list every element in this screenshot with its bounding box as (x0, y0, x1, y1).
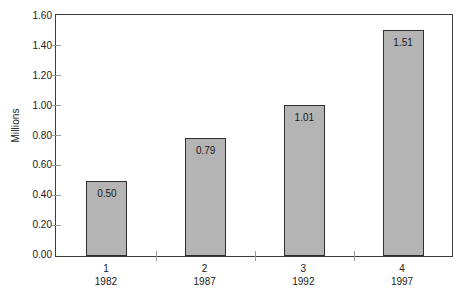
bar-value-label: 0.50 (87, 189, 126, 199)
x-axis-category-year: 1987 (155, 275, 254, 288)
bar-value-label: 1.51 (384, 38, 423, 48)
x-axis-tick-mark (255, 251, 256, 261)
y-axis-tick-mark (52, 225, 61, 226)
bar[interactable]: 1.01 (284, 105, 325, 256)
x-axis-category-label: 11982 (57, 262, 156, 288)
bar[interactable]: 1.51 (383, 30, 424, 256)
y-axis-tick-label: 1.40 (14, 41, 52, 51)
x-axis-category-label: 31992 (254, 262, 353, 288)
y-axis-tick-label: 1.60 (14, 11, 52, 21)
bar[interactable]: 0.79 (185, 138, 226, 256)
x-axis-category-id: 3 (254, 262, 353, 275)
x-axis-category-label: 41997 (353, 262, 452, 288)
y-axis-tick-label: 0.80 (14, 131, 52, 141)
bar-chart: Millions 0.000.200.400.600.801.001.201.4… (0, 0, 465, 301)
y-axis-tick-label: 0.20 (14, 220, 52, 230)
y-axis-tick-mark (52, 45, 61, 46)
y-axis-tick-label: 0.00 (14, 250, 52, 260)
x-axis-category-id: 4 (353, 262, 452, 275)
x-axis-category-label: 21987 (155, 262, 254, 288)
x-axis-category-year: 1992 (254, 275, 353, 288)
x-axis-category-year: 1982 (57, 275, 156, 288)
y-axis-tick-label: 0.40 (14, 190, 52, 200)
bars-layer: 0.500.791.011.51 (56, 15, 452, 256)
y-axis-tick-mark (52, 135, 61, 136)
x-axis-tick-mark (354, 251, 355, 261)
x-axis-category-id: 2 (155, 262, 254, 275)
bar-value-label: 0.79 (186, 146, 225, 156)
x-axis-category-year: 1997 (353, 275, 452, 288)
x-axis-tick-mark (156, 251, 157, 261)
y-axis-tick-labels: 0.000.200.400.600.801.001.201.401.60 (10, 0, 52, 301)
bar[interactable]: 0.50 (86, 181, 127, 256)
y-axis-tick-mark (52, 195, 61, 196)
y-axis-tick-label: 1.20 (14, 71, 52, 81)
y-axis-tick-label: 0.60 (14, 160, 52, 170)
y-axis-tick-mark (52, 75, 61, 76)
plot-area: 0.500.791.011.51 (55, 14, 453, 257)
bar-value-label: 1.01 (285, 113, 324, 123)
x-axis-category-id: 1 (57, 262, 156, 275)
y-axis-tick-mark (52, 105, 61, 106)
y-axis-tick-label: 1.00 (14, 101, 52, 111)
y-axis-tick-mark (52, 165, 61, 166)
